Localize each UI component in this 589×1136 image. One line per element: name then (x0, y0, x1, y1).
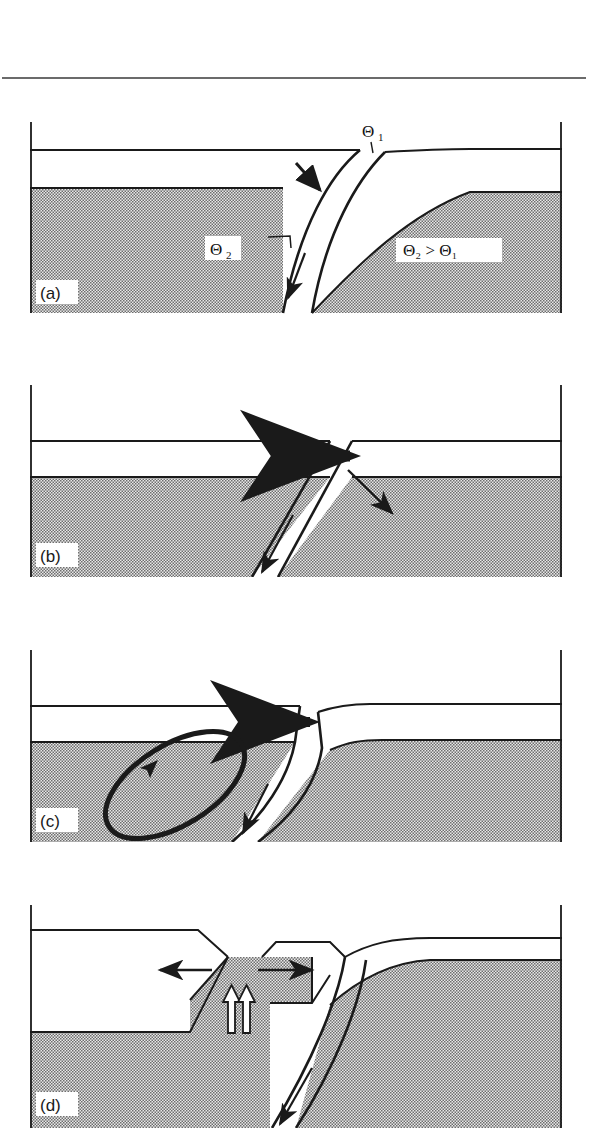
inequality-label-a: Θ₂ > Θ₁ (403, 241, 458, 260)
theta2-subscript-a: 2 (226, 249, 232, 261)
figure-root: Θ 2 Θ₂ > Θ₁ (a) Θ 1 (0, 0, 589, 1136)
theta2-label-a: Θ (210, 240, 222, 259)
theta1-subscript-a: 1 (378, 131, 384, 143)
panel-d-label: (d) (40, 1096, 61, 1115)
figure-canvas: Θ 2 Θ₂ > Θ₁ (a) Θ 1 (0, 0, 589, 1136)
panel-b-label: (b) (40, 547, 61, 566)
theta1-label-a: Θ (362, 122, 374, 141)
panel-a-label: (a) (40, 284, 61, 303)
panel-c-label: (c) (40, 812, 60, 831)
